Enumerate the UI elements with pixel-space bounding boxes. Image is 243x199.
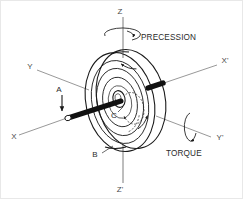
label-point-b: B (92, 150, 97, 159)
label-y-right: Y' (217, 133, 224, 142)
axis-line-x-right (161, 65, 217, 84)
axle-near-tip (64, 115, 72, 122)
spin-arrow-outer-dash (125, 115, 143, 132)
label-x-left: X (11, 132, 17, 141)
label-precession: PRECESSION (141, 33, 196, 42)
precession-rotation-arrow (105, 28, 141, 40)
diagram-canvas: Z Z' Y X X' Y' A B C PRECESSION TORQUE (1, 1, 243, 199)
label-y-left: Y (27, 62, 33, 71)
label-x-right: X' (222, 56, 229, 65)
leader-line-b (102, 146, 113, 153)
torque-arrowhead-path (191, 133, 196, 141)
gyroscope-diagram: Z Z' Y X X' Y' A B C PRECESSION TORQUE (0, 0, 243, 199)
label-z-bottom: Z' (117, 185, 124, 194)
label-torque: TORQUE (166, 149, 202, 158)
label-point-c: C (111, 111, 117, 120)
precession-arrowhead-path (127, 31, 133, 37)
precession-ellipse-path (105, 28, 141, 40)
label-z-top: Z (118, 7, 123, 16)
axis-line-y-left (37, 70, 89, 90)
axis-line-x-left (19, 118, 67, 135)
gyroscope-disc (76, 43, 174, 158)
label-point-a: A (56, 85, 62, 94)
